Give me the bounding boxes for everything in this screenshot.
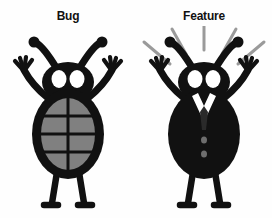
panel-bug: Bug (0, 0, 136, 218)
feature-body-suit (168, 89, 240, 179)
feature-antenna-tip-right (233, 37, 244, 48)
bug-antenna-left (36, 43, 57, 69)
feature-suit-button-lower (201, 150, 207, 157)
bug-antenna-tip-right (97, 37, 108, 48)
feature-suit-button-upper (201, 136, 207, 143)
bug-eye-left (52, 70, 67, 88)
bug-character (0, 26, 136, 218)
feature-character (136, 26, 272, 218)
illustration-canvas: Bug (0, 0, 272, 218)
bug-antenna-tip-left (29, 37, 40, 48)
bug-hand-right (104, 57, 121, 71)
bug-antenna-right (79, 43, 100, 69)
feature-antenna-tip-left (165, 37, 176, 48)
panel-title-bug: Bug (5, 8, 130, 23)
bug-shell (41, 98, 95, 170)
panel-feature: Feature (136, 0, 272, 218)
bug-hand-left (15, 57, 32, 71)
bug-eye-right (70, 70, 85, 88)
feature-eye-left (188, 70, 203, 88)
feature-eye-right (206, 70, 221, 88)
panel-title-feature: Feature (141, 8, 266, 23)
